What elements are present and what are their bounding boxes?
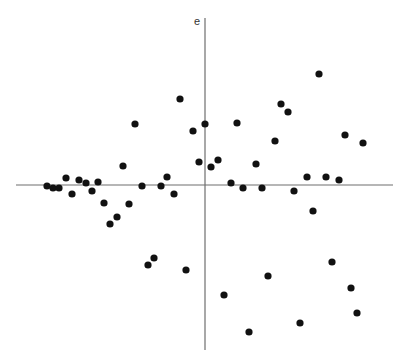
data-point [88,187,95,194]
data-point [233,119,240,126]
data-point [68,190,75,197]
data-point [353,309,360,316]
data-point [220,291,227,298]
data-point [144,261,151,268]
data-point [62,174,69,181]
data-point [113,213,120,220]
data-point [359,139,366,146]
y-axis-label: e [194,15,200,27]
data-point [55,184,62,191]
data-point [100,199,107,206]
data-point [264,272,271,279]
data-point [207,163,214,170]
data-point [201,120,208,127]
data-point [157,182,164,189]
data-point [277,100,284,107]
data-point [106,220,113,227]
data-point [347,284,354,291]
data-point [239,184,246,191]
data-point [150,254,157,261]
scatter-plot: e [0,0,409,362]
data-point [245,328,252,335]
data-point [284,108,291,115]
data-point [303,173,310,180]
data-point [182,266,189,273]
data-point [296,319,303,326]
data-point [195,158,202,165]
data-point [75,176,82,183]
data-point [227,179,234,186]
data-point [328,258,335,265]
data-point [163,173,170,180]
data-point [131,120,138,127]
data-point [335,176,342,183]
data-point [214,156,221,163]
data-point [258,184,265,191]
data-point [341,131,348,138]
data-point [309,207,316,214]
data-point [94,178,101,185]
data-point [290,187,297,194]
data-point [119,162,126,169]
data-point [82,179,89,186]
data-point [170,190,177,197]
data-point [138,182,145,189]
data-point [125,200,132,207]
data-point [315,70,322,77]
data-point [271,137,278,144]
data-point [189,127,196,134]
data-point [322,173,329,180]
data-point [176,95,183,102]
data-point [252,160,259,167]
